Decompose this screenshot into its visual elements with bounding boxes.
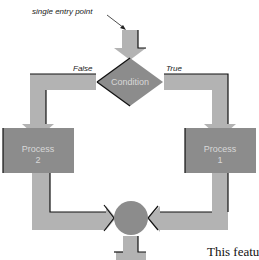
- condition-diamond: Condition: [97, 58, 163, 106]
- entry-point-label: single entry point: [32, 7, 93, 16]
- caption-fragment: This featu: [207, 244, 259, 260]
- exit-arrow: [114, 236, 146, 260]
- left-return-arrow: [32, 173, 116, 231]
- process-2-box: Process 2: [3, 128, 74, 173]
- right-return-arrow: [148, 173, 228, 232]
- process-2-line2: 2: [35, 155, 40, 165]
- false-label: False: [73, 64, 93, 73]
- process-1-box: Process 1: [185, 128, 256, 173]
- process-2-line1: Process: [22, 144, 55, 154]
- entry-pointer-line: [107, 15, 124, 28]
- process-1-line2: 1: [217, 155, 222, 165]
- entry-arrow: [114, 30, 146, 60]
- process-1-line1: Process: [204, 144, 237, 154]
- merge-circle: [114, 201, 148, 235]
- flowchart-diagram: Condition False True single entry point …: [0, 0, 259, 260]
- true-label: True: [166, 64, 182, 73]
- condition-label: Condition: [111, 77, 149, 87]
